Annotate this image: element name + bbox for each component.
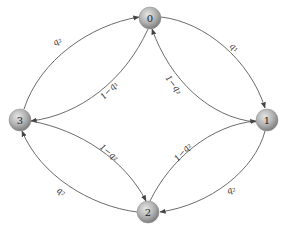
edge-label-2-to-3: q₂ — [55, 185, 68, 198]
node-1: 1 — [256, 109, 278, 131]
edge-2-to-1 — [150, 121, 256, 201]
edge-label-3-to-2: 1−q₂ — [98, 142, 121, 163]
edge-0-to-3 — [31, 29, 148, 121]
edge-label-0-to-3: 1−q₁ — [98, 79, 120, 102]
edge-label-1-to-2: q₂ — [225, 183, 237, 196]
node-3: 3 — [9, 109, 31, 131]
edge-2-to-3 — [22, 131, 137, 212]
node-2-label: 2 — [145, 207, 151, 218]
edge-3-to-2 — [31, 121, 146, 201]
node-0-label: 0 — [147, 13, 153, 24]
edge-3-to-0 — [24, 17, 139, 109]
edge-label-2-to-1: 1−q₂ — [172, 140, 194, 163]
node-1-label: 1 — [264, 115, 270, 126]
node-0: 0 — [139, 7, 161, 29]
edge-label-1-to-0: 1−q₂ — [163, 73, 184, 96]
edge-label-3-to-0: q₂ — [50, 34, 63, 48]
node-2: 2 — [137, 201, 159, 223]
markov-chain-diagram: q₂ q₁ 1−q₂ 1−q₁ 1−q₂ 1−q₂ q₂ q₂ 0 1 2 3 — [0, 0, 293, 230]
edge-1-to-2 — [160, 131, 265, 212]
node-3-label: 3 — [17, 115, 23, 126]
